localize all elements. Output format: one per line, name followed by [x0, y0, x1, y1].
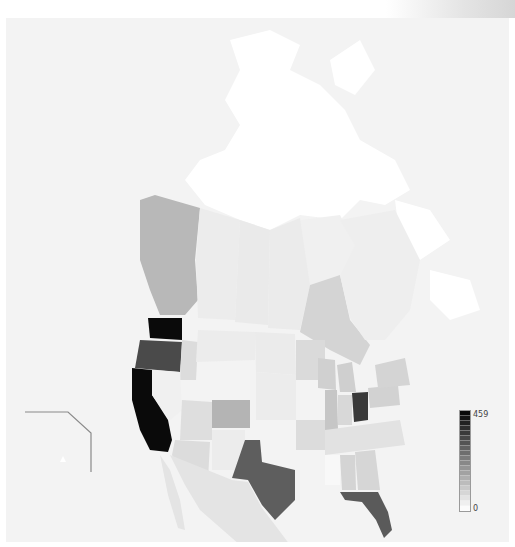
region-wisconsin[interactable]: [318, 358, 336, 390]
color-scale-legend: [459, 410, 471, 512]
region-washington[interactable]: [148, 318, 182, 340]
region-montana[interactable]: [196, 330, 255, 362]
region-saskatchewan[interactable]: [235, 220, 270, 325]
region-colorado[interactable]: [212, 400, 250, 428]
legend-max-label: 459: [473, 411, 488, 419]
region-mississippi[interactable]: [325, 455, 340, 485]
region-british-columbia[interactable]: [140, 195, 200, 315]
region-indiana[interactable]: [338, 395, 352, 425]
top-margin: [0, 0, 515, 18]
region-alabama[interactable]: [340, 455, 356, 490]
choropleth-map[interactable]: [6, 18, 509, 542]
region-ohio[interactable]: [352, 392, 368, 422]
region-idaho[interactable]: [180, 340, 198, 380]
inset-frame: [25, 412, 91, 472]
region-dakotas[interactable]: [255, 332, 296, 375]
region-plains[interactable]: [256, 372, 296, 420]
region-florida[interactable]: [340, 492, 392, 538]
region-new-york[interactable]: [375, 358, 410, 388]
region-michigan[interactable]: [337, 362, 356, 392]
hawaii-marker: [60, 456, 66, 462]
map-panel[interactable]: [6, 18, 509, 542]
region-missouri[interactable]: [296, 420, 325, 450]
legend-step: [460, 506, 470, 511]
region-utah[interactable]: [180, 400, 212, 440]
region-georgia[interactable]: [355, 450, 380, 490]
region-illinois[interactable]: [325, 390, 338, 430]
region-pennsylvania[interactable]: [368, 385, 400, 408]
region-alberta[interactable]: [196, 208, 240, 320]
legend-min-label: 0: [473, 505, 478, 513]
region-oregon[interactable]: [135, 340, 182, 372]
